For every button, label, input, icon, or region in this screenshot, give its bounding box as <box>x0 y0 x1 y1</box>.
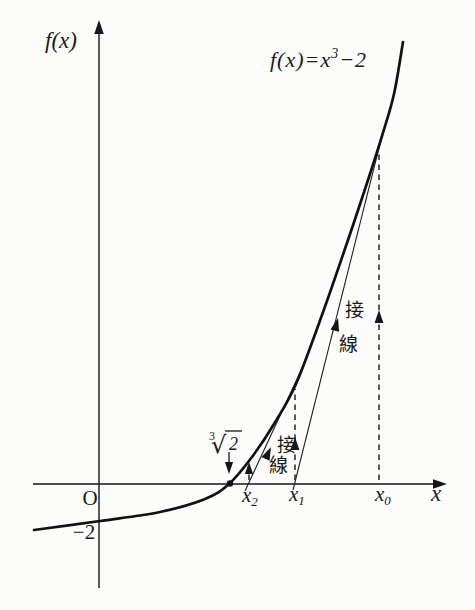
y-axis-label: f(x) <box>45 28 77 53</box>
x2-label: x2 <box>241 483 258 509</box>
equation-prefix: f(x)=x <box>270 47 331 72</box>
tangent1-char1: 接 <box>345 299 364 321</box>
equation-exponent: 3 <box>330 46 339 61</box>
root-dot <box>227 480 233 486</box>
tangent2-char2: 線 <box>269 454 288 476</box>
x0-subscript: 0 <box>384 493 391 508</box>
cube-root-label: 3 √ 2 <box>209 429 238 459</box>
radical-sign: √ <box>211 431 227 459</box>
origin-label: O <box>82 486 97 510</box>
x1-label: x1 <box>288 482 305 508</box>
y-tick-minus2: −2 <box>73 520 95 544</box>
equation-suffix: −2 <box>339 47 367 72</box>
tangent1-label: 接 線 <box>339 299 364 355</box>
x1-subscript: 1 <box>298 493 305 508</box>
x-axis-label: x <box>430 481 442 506</box>
dashed-x0-arrowhead <box>375 310 384 323</box>
function-equation: f(x)=x3−2 <box>270 46 367 72</box>
tangent-line-1 <box>293 128 384 490</box>
root-pointer-arrowhead <box>225 462 233 474</box>
tangent2-label: 接 線 <box>269 434 296 476</box>
y-axis-arrowhead <box>94 20 104 34</box>
newton-method-figure: f(x) f(x)=x3−2 O −2 3 √ 2 x2 x1 x0 x 接 線… <box>0 0 475 610</box>
x0-label: x0 <box>374 482 391 508</box>
cube-root-radicand: 2 <box>229 434 238 454</box>
tangent2-char1: 接 <box>277 434 296 456</box>
tangent1-char2: 線 <box>339 333 358 355</box>
x2-subscript: 2 <box>251 494 258 509</box>
figure-canvas: f(x) f(x)=x3−2 O −2 3 √ 2 x2 x1 x0 x 接 線… <box>0 0 475 610</box>
